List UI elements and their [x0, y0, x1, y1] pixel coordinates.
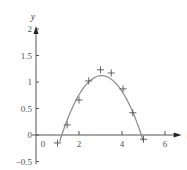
x-tick-label: 0 [41, 139, 46, 149]
y-tick-label: 1 [28, 77, 33, 87]
y-tick-label: −0.5 [16, 157, 33, 167]
plus-marker-icon [129, 109, 136, 116]
data-points [54, 66, 147, 146]
chart: −0.500.511.520246yt [0, 0, 187, 170]
x-tick-label: 2 [77, 139, 82, 149]
y-tick-label: 1.5 [21, 51, 33, 61]
plus-marker-icon [97, 66, 104, 73]
y-axis-label: y [30, 11, 36, 22]
plus-marker-icon [140, 136, 147, 143]
y-tick-label: 0 [28, 130, 33, 140]
fitted-curve [60, 76, 144, 142]
x-axis-arrow-icon [174, 133, 182, 138]
tick-labels: −0.500.511.520246yt [16, 11, 187, 167]
axes [32, 26, 182, 164]
x-tick-label: 6 [163, 139, 168, 149]
x-tick-label: 4 [120, 139, 125, 149]
plus-marker-icon [85, 77, 92, 84]
y-tick-label: 2 [28, 24, 33, 34]
plus-marker-icon [76, 97, 83, 104]
plus-marker-icon [108, 69, 115, 76]
plus-marker-icon [120, 85, 127, 92]
parabola-curve [60, 76, 144, 142]
y-axis-arrow-icon [34, 26, 39, 34]
y-tick-label: 0.5 [21, 104, 33, 114]
